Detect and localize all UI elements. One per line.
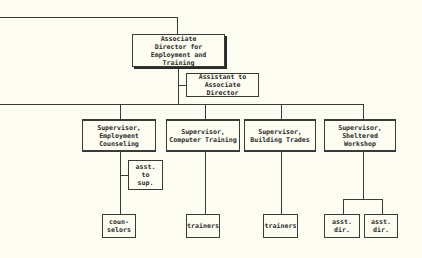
asst-dir-box-1: asst. dir.: [324, 214, 360, 238]
stem-sup-3: [281, 152, 282, 214]
drop-sup-3: [281, 104, 282, 119]
counselors-box: coun- selors: [102, 214, 136, 238]
asst-dir-split: [343, 199, 383, 200]
asst-dir-box-2: asst. dir.: [364, 214, 398, 238]
supervisor-box-computer: Supervisor, Computer Training: [166, 119, 240, 152]
trainers-box-computer: trainers: [186, 214, 220, 238]
asst-to-sup-box: asst. to sup.: [128, 160, 163, 190]
drop-sup-2: [205, 104, 206, 119]
drop-sup-4: [363, 104, 364, 119]
drop-asst-dir-2: [382, 199, 383, 214]
asst-sup-branch: [120, 175, 128, 176]
trainers-box-building: trainers: [263, 214, 298, 238]
director-box: Associate Director for Employment and Tr…: [132, 34, 225, 67]
supervisor-bus: [0, 104, 364, 105]
assistant-branch: [178, 85, 186, 86]
stem-sup-1: [120, 152, 121, 214]
stem-sup-2: [205, 152, 206, 214]
drop-sup-1: [120, 104, 121, 119]
stem-sup-4: [363, 152, 364, 199]
supervisor-box-sheltered: Supervisor, Sheltered Workshop: [324, 119, 396, 152]
supervisor-box-employment: Supervisor, Employment Counseling: [82, 119, 156, 152]
top-drop: [177, 17, 178, 34]
assistant-box: Assistant to Associate Director: [186, 73, 259, 97]
top-connector: [0, 17, 178, 18]
supervisor-box-building: Supervisor, Building Trades: [244, 119, 316, 152]
drop-asst-dir-1: [343, 199, 344, 214]
